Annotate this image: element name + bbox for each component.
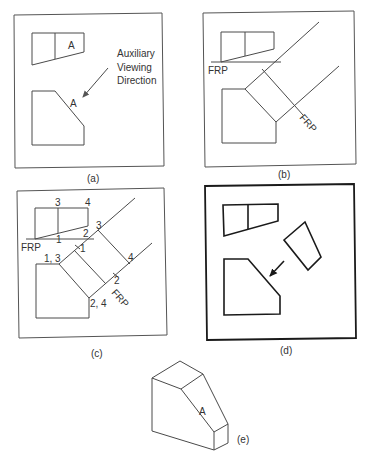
caption-d: (d) [280,345,292,356]
panel-d-front-view [224,259,280,315]
panel-a-front-surface-label: A [70,98,77,109]
panel-b-front-view [222,89,276,143]
panel-c-top-point-2: 2 [83,228,89,239]
panel-c-frp-aux-label: FRP [110,287,132,309]
panel-b-frp-aux-line [262,69,303,115]
panel-c-aux-point-1: 1 [80,243,86,254]
panel-c-top-point-1: 1 [56,234,62,245]
panel-c-frp-top-label: FRP [21,242,41,253]
panel-e: A (e) [152,361,249,450]
panel-c-top-point-4: 4 [85,197,91,208]
annotation-line-3: Direction [117,75,156,86]
panel-c-aux-point-2: 2 [114,275,120,286]
panel-b: FRP FRP (b) [203,11,356,180]
panel-d: (d) [205,184,356,356]
isometric-surface-label: A [199,406,206,417]
panel-b-frp-top-label: FRP [208,65,228,76]
panel-c: FRP 3 4 1 2 1, 3 2, 4 3 1 4 2 FRP (c) [17,188,167,359]
panel-c-frame [17,188,167,338]
panel-c-front-view [36,264,89,318]
panel-b-top-view [221,32,274,62]
isometric-solid-outline [152,361,228,450]
panel-b-frp-aux-label: FRP [298,112,320,134]
viewing-direction-arrow-icon [83,68,108,97]
panel-c-front-point-24: 2, 4 [90,298,107,309]
panel-c-top-point-3: 3 [55,197,61,208]
panel-c-frp-aux-line [74,250,106,284]
panel-d-direction-arrow-icon [270,261,284,276]
panel-d-top-view [223,204,278,236]
panel-c-aux-point-4: 4 [128,252,134,263]
panel-a-top-view [32,33,84,65]
annotation-line-1: Auxiliary [117,48,155,59]
annotation-line-2: Viewing [117,62,152,73]
panel-a-top-surface-label: A [68,40,75,51]
panel-d-frame [205,184,356,340]
panel-a: A A Auxiliary Viewing Direction (a) [14,13,164,184]
panel-c-front-point-13: 1, 3 [44,253,61,264]
caption-c: (c) [91,348,103,359]
auxiliary-view-figure: A A Auxiliary Viewing Direction (a) FRP … [0,0,370,461]
caption-b: (b) [278,169,290,180]
panel-c-aux-point-3: 3 [96,220,102,231]
caption-a: (a) [87,173,99,184]
panel-d-auxiliary-view [284,222,321,270]
caption-e: (e) [237,434,249,445]
